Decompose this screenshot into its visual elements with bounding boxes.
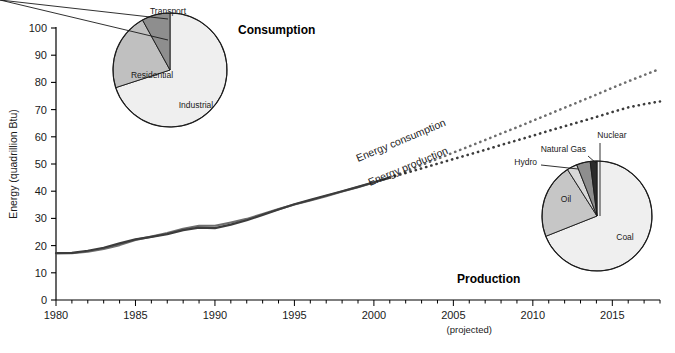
- pie-title-production: Production: [457, 272, 520, 286]
- consumption-pie: IndustrialResidentialTransportConsumptio…: [0, 0, 315, 127]
- pie-label-transport: Transport: [150, 6, 187, 16]
- x-tick-label: 1995: [282, 309, 306, 321]
- y-tick-label: 0: [41, 294, 47, 306]
- x-tick-label: 1985: [123, 309, 147, 321]
- pie-label-coal: Coal: [616, 232, 634, 242]
- x-tick-label: 2015: [600, 309, 624, 321]
- y-tick-label: 10: [35, 267, 47, 279]
- x-tick-label: 1980: [44, 309, 68, 321]
- pie-label-industrial: Industrial: [179, 100, 214, 110]
- pie-label-natural-gas: Natural Gas: [541, 144, 586, 154]
- y-tick-label: 20: [35, 240, 47, 252]
- pie-label-nuclear: Nuclear: [597, 130, 626, 140]
- chart-canvas: 0102030405060708090100198019851990199520…: [0, 0, 675, 353]
- y-tick-label: 60: [35, 131, 47, 143]
- pie-label-residential: Residential: [131, 70, 173, 80]
- x-tick-label: 2010: [521, 309, 545, 321]
- x-tick-label: 2005: [441, 309, 465, 321]
- y-axis-title: Energy (quadrillion Btu): [7, 109, 19, 219]
- energy-chart-figure: 0102030405060708090100198019851990199520…: [0, 0, 675, 353]
- x-tick-label: 2000: [362, 309, 386, 321]
- y-tick-label: 40: [35, 185, 47, 197]
- y-tick-label: 30: [35, 212, 47, 224]
- y-tick-label: 90: [35, 49, 47, 61]
- y-tick-label: 50: [35, 158, 47, 170]
- pie-label-hydro: Hydro: [514, 157, 537, 167]
- y-tick-label: 80: [35, 76, 47, 88]
- figure-caption: D Energy consumption and production in C…: [0, 322, 675, 353]
- y-tick-label: 70: [35, 104, 47, 116]
- x-tick-label: 1990: [203, 309, 227, 321]
- production-pie: CoalOilHydroNatural GasNuclearProduction: [457, 130, 652, 286]
- series-solid-energy-consumption: [56, 178, 390, 254]
- pie-title-consumption: Consumption: [238, 23, 315, 37]
- y-tick-label: 100: [29, 22, 47, 34]
- pie-leader-line: [0, 0, 168, 19]
- series-solid-energy-production: [56, 178, 390, 254]
- pie-label-oil: Oil: [561, 194, 572, 204]
